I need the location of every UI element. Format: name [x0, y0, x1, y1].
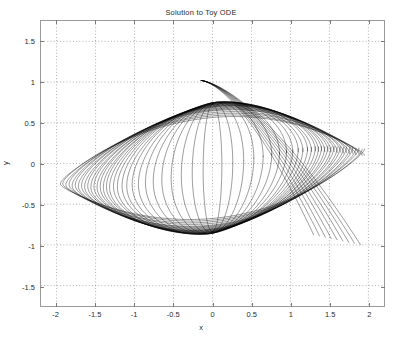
page-title: Solution to Toy ODE — [0, 8, 402, 17]
x-tickmark — [173, 20, 174, 24]
plot-svg — [41, 21, 384, 306]
y-tickmark — [381, 41, 385, 42]
figure-canvas: Solution to Toy ODE 1.510.50-0.5-1-1.5 -… — [0, 0, 402, 342]
x-tick-label: -2 — [52, 310, 59, 319]
y-tickmark — [40, 164, 44, 165]
x-tickmark — [95, 20, 96, 24]
y-tickmark — [40, 287, 44, 288]
x-tickmark — [252, 303, 253, 307]
x-tickmark — [56, 303, 57, 307]
x-tick-label: 1 — [289, 310, 293, 319]
x-tickmark — [252, 20, 253, 24]
x-tickmark — [291, 20, 292, 24]
x-tick-label: 0 — [210, 310, 214, 319]
x-tickmark — [134, 303, 135, 307]
x-tick-label: -0.5 — [167, 310, 180, 319]
y-tickmark — [40, 41, 44, 42]
y-tickmark — [381, 205, 385, 206]
x-tickmark — [213, 303, 214, 307]
y-tickmark — [40, 246, 44, 247]
y-tickmark — [381, 287, 385, 288]
x-tickmark — [330, 303, 331, 307]
grid-layer — [41, 21, 384, 306]
x-tick-label: -1.5 — [88, 310, 101, 319]
x-tickmark — [369, 20, 370, 24]
y-tick-label: -1.5 — [0, 282, 35, 291]
x-tickmark — [291, 303, 292, 307]
y-tickmark — [381, 123, 385, 124]
curves-layer — [60, 80, 364, 244]
plot-area — [40, 20, 385, 307]
x-tickmark — [134, 20, 135, 24]
y-tickmark — [40, 82, 44, 83]
y-tick-label: 0.5 — [0, 118, 35, 127]
orbit-curve — [201, 80, 343, 241]
x-axis-label: x — [0, 323, 402, 332]
y-tick-label: -0.5 — [0, 200, 35, 209]
y-tickmark — [40, 205, 44, 206]
x-tickmark — [330, 20, 331, 24]
x-tickmark — [95, 303, 96, 307]
y-tick-label: 1.5 — [0, 36, 35, 45]
x-tickmark — [369, 303, 370, 307]
x-tick-label: 2 — [367, 310, 371, 319]
y-tickmark — [381, 164, 385, 165]
y-tickmark — [40, 123, 44, 124]
y-tick-label: 1 — [0, 77, 35, 86]
y-tickmark — [381, 82, 385, 83]
y-tickmark — [381, 246, 385, 247]
x-tick-label: -1 — [131, 310, 138, 319]
x-tickmark — [213, 20, 214, 24]
x-tick-label: 1.5 — [325, 310, 335, 319]
y-tick-label: -1 — [0, 241, 35, 250]
x-tickmark — [173, 303, 174, 307]
y-axis-label: y — [1, 161, 10, 165]
x-tick-label: 0.5 — [246, 310, 256, 319]
x-tickmark — [56, 20, 57, 24]
